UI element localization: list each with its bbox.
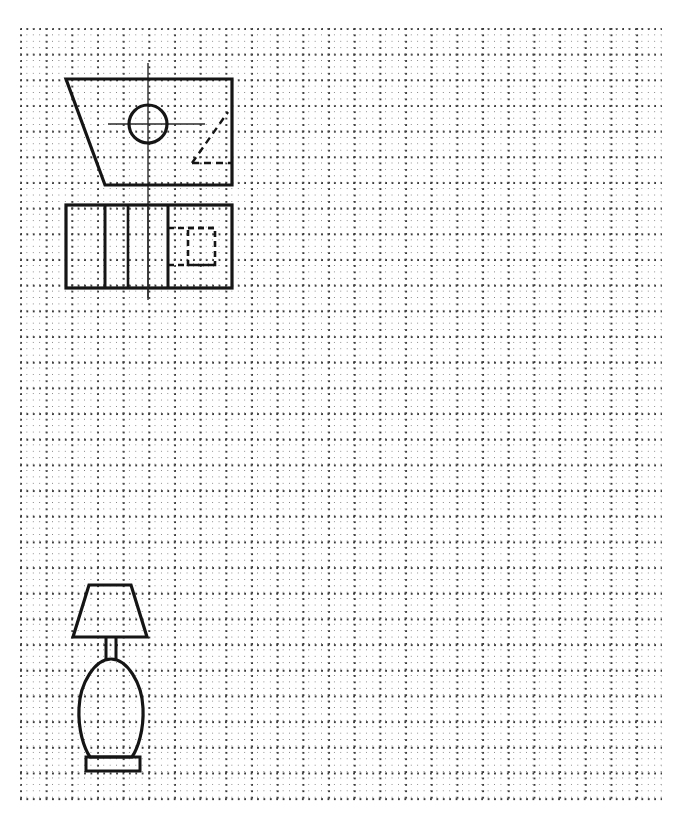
- hidden-bore-rect: [188, 228, 215, 265]
- technical-drawing-layer: [0, 0, 679, 821]
- top-view-outline: [66, 79, 232, 185]
- lamp-neck: [106, 637, 116, 659]
- front-view-outline: [66, 205, 232, 288]
- lamp-body: [79, 659, 143, 757]
- hidden-chamfer-diagonal: [192, 112, 228, 163]
- lamp-shade: [73, 585, 147, 637]
- front-view-drawing: [66, 205, 232, 298]
- lamp-drawing: [73, 585, 147, 771]
- lamp-base: [86, 757, 140, 771]
- drawing-sheet: Top view — trapezoidal plate with circul…: [0, 0, 679, 821]
